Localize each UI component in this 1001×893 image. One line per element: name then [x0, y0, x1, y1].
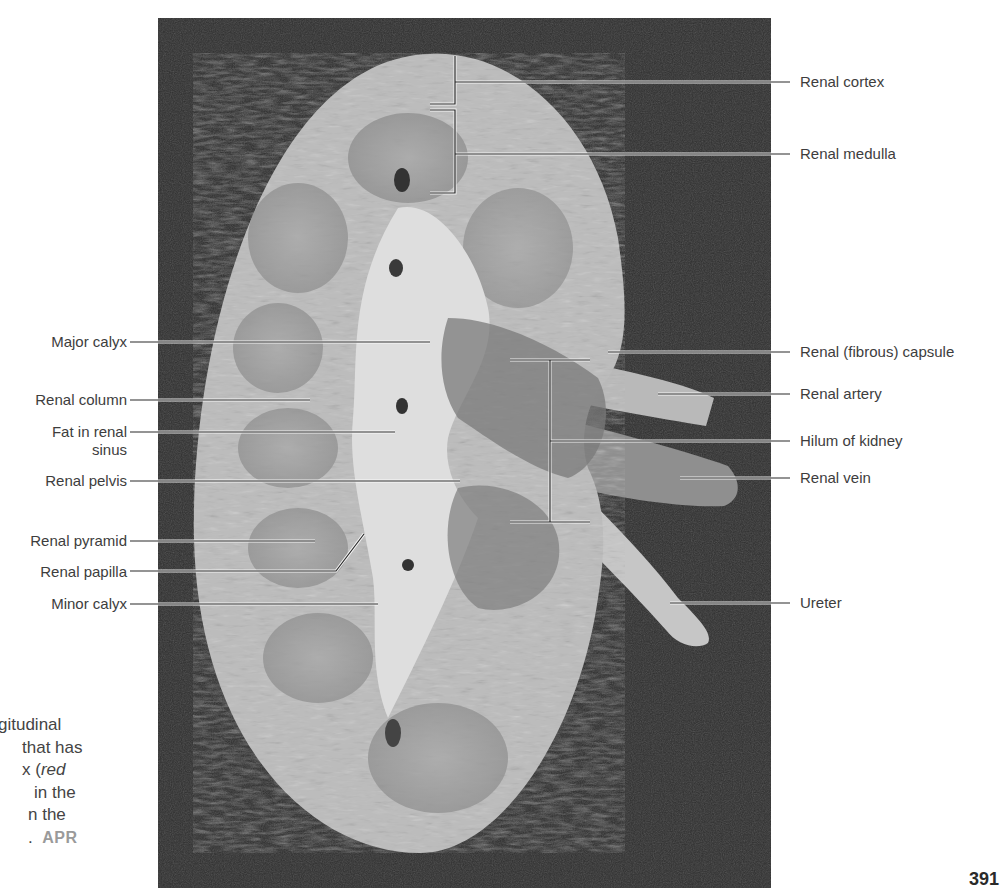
label-renal-cortex: Renal cortex — [800, 73, 884, 91]
caption-line: n the — [28, 804, 150, 827]
label-major-calyx: Major calyx — [51, 333, 127, 351]
label-fat-in-renal-sinus: Fat in renal sinus — [52, 423, 127, 459]
caption-line: that has — [22, 737, 150, 760]
label-renal-column: Renal column — [35, 391, 127, 409]
caption-line: in the — [34, 782, 150, 805]
caption-line: . APR — [28, 827, 150, 850]
figure-caption: gitudinal that has x (red in the n the .… — [0, 714, 150, 849]
label-hilum-of-kidney: Hilum of kidney — [800, 432, 903, 450]
label-renal-vein: Renal vein — [800, 469, 871, 487]
label-renal-pelvis: Renal pelvis — [45, 472, 127, 490]
page-number: 391 — [969, 869, 999, 890]
label-renal-medulla: Renal medulla — [800, 145, 896, 163]
apr-badge[interactable]: APR — [42, 829, 77, 846]
label-fat-in-renal-sinus-line1: Fat in renal — [52, 423, 127, 441]
kidney-section-illustration — [158, 18, 771, 888]
label-minor-calyx: Minor calyx — [51, 595, 127, 613]
kidney-photograph — [158, 18, 771, 888]
label-renal-artery: Renal artery — [800, 385, 882, 403]
label-ureter: Ureter — [800, 594, 842, 612]
label-renal-pyramid: Renal pyramid — [30, 532, 127, 550]
caption-line: x (red — [22, 759, 150, 782]
label-renal-fibrous-capsule: Renal (fibrous) capsule — [800, 343, 954, 361]
caption-line: gitudinal — [0, 714, 150, 737]
label-fat-in-renal-sinus-line2: sinus — [52, 441, 127, 459]
label-renal-papilla: Renal papilla — [40, 563, 127, 581]
